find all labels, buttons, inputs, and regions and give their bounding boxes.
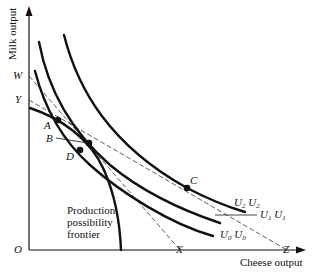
- ppf-label-line2: possibility: [67, 216, 113, 228]
- indifference-curve-u2: [64, 35, 245, 212]
- origin-label: O: [14, 243, 22, 255]
- point-a: [55, 117, 62, 124]
- svg-text:U0 U0: U0 U0: [220, 228, 246, 242]
- point-c-label: C: [190, 174, 198, 186]
- point-b: [86, 140, 93, 147]
- svg-text:U1 U1: U1 U1: [260, 208, 286, 222]
- intercept-z-label: Z: [283, 243, 290, 255]
- intercept-x-label: X: [175, 243, 184, 255]
- point-b-label: B: [46, 132, 53, 144]
- u1-label: U1 U1: [260, 208, 286, 222]
- svg-text:U2 U2: U2 U2: [234, 196, 260, 210]
- u2-label: U2 U2: [234, 196, 260, 210]
- intercept-y-label: Y: [15, 93, 23, 105]
- point-d-label: D: [65, 150, 74, 162]
- y-axis-arrow-icon: [26, 6, 33, 16]
- x-axis-arrow-icon: [296, 247, 306, 254]
- point-a-label: A: [43, 119, 51, 131]
- ppf-indifference-diagram: Milk output Cheese output O W Y X Z A B …: [0, 0, 313, 273]
- u0-label: U0 U0: [220, 228, 246, 242]
- y-axis-label: Milk output: [6, 8, 18, 60]
- point-d: [77, 147, 84, 154]
- x-axis-label: Cheese output: [240, 256, 303, 268]
- intercept-w-label: W: [13, 69, 23, 81]
- ppf-label-line3: frontier: [67, 228, 100, 240]
- ppf-label-line1: Production: [67, 204, 116, 216]
